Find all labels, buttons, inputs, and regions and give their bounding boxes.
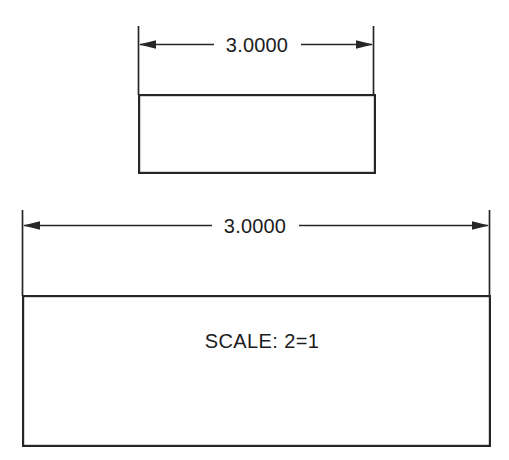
upper-part-view: 3.0000 [139,26,375,173]
upper-part-outline [139,95,375,173]
lower-dimension-label: 3.0000 [224,215,286,237]
scale-note-label: SCALE: 2=1 [205,330,320,352]
drawing-canvas: 3.0000 3.0000 SCALE: 2=1 [0,0,509,460]
lower-arrowhead-left-icon [23,221,40,229]
upper-arrowhead-right-icon [356,40,373,48]
upper-arrowhead-left-icon [139,40,156,48]
drawing-sheet: 3.0000 3.0000 SCALE: 2=1 [0,0,509,460]
lower-arrowhead-right-icon [472,221,489,229]
lower-part-view: 3.0000 SCALE: 2=1 [23,210,490,446]
upper-dimension-label: 3.0000 [226,34,288,56]
lower-part-outline [23,296,490,446]
